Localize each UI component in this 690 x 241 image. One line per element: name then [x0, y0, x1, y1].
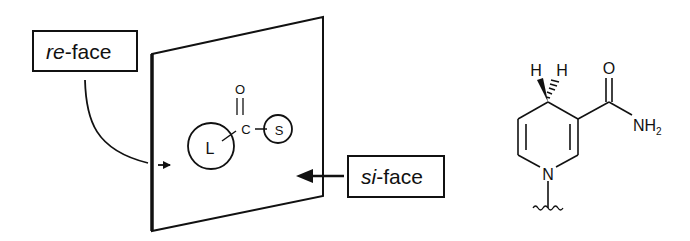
si-face-label: si-face [348, 156, 444, 197]
si-face-italic: si [361, 165, 378, 188]
si-face-rest: -face [376, 165, 423, 188]
re-face-italic: re [46, 40, 65, 63]
amide-oxygen: O [603, 60, 615, 77]
small-group-label: S [275, 123, 284, 138]
svg-text:re-face: re-face [46, 40, 111, 63]
large-group-label: L [206, 140, 215, 157]
carbonyl-carbon: C [241, 122, 250, 137]
diagram-canvas: re-face O C L S si-face [0, 0, 690, 241]
prochiral-plane [152, 17, 323, 231]
diagram-stage: re-face O C L S si-face [0, 0, 690, 241]
re-face-arrow [85, 80, 170, 165]
nicotinamide-cofactor [518, 78, 632, 210]
svg-text:si-face: si-face [361, 165, 423, 188]
hydrogen-wedge: H [530, 62, 542, 79]
ketone-substrate: O C L S [188, 82, 292, 169]
nicotinamide-atom-labels: H H O NH2 N [530, 60, 662, 183]
amide-nh2: NH2 [633, 117, 662, 137]
re-face-rest: -face [65, 40, 112, 63]
ring-nitrogen: N [542, 166, 554, 183]
carbonyl-oxygen: O [235, 82, 245, 97]
amide-n-text: NH [633, 117, 656, 134]
si-face-arrow [296, 169, 344, 183]
hydrogen-hash: H [556, 62, 568, 79]
amide-n-subscript: 2 [656, 126, 662, 137]
re-face-label: re-face [33, 31, 137, 71]
